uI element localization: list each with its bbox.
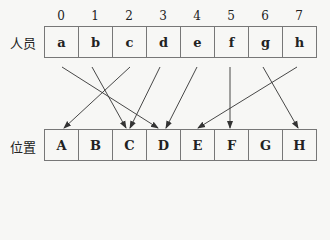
- position-cell: B: [79, 130, 113, 160]
- position-cell: F: [215, 130, 249, 160]
- position-cell: A: [45, 130, 79, 160]
- positions-row: A B C D E F G H: [44, 129, 317, 161]
- arrow-d-to-C: [130, 67, 160, 128]
- position-cell: D: [147, 130, 181, 160]
- position-cell: H: [283, 130, 316, 160]
- position-cell: E: [181, 130, 215, 160]
- arrow-g-to-H: [263, 67, 298, 128]
- position-cell: C: [113, 130, 147, 160]
- arrow-e-to-D: [166, 67, 197, 128]
- position-cell: G: [249, 130, 283, 160]
- arrow-a-to-D: [62, 67, 158, 128]
- arrow-h-to-E: [198, 67, 297, 128]
- bottom-row-label: 位置: [10, 137, 36, 156]
